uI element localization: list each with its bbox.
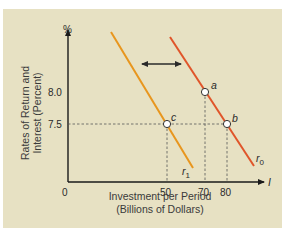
y-tick-8-0: 8.0 <box>48 87 62 98</box>
y-axis-title: Rates of Return and Interest (Percent) <box>19 43 43 183</box>
x-axis-title: Investment per Period (Billions of Dolla… <box>95 190 225 216</box>
label-r1: r1 <box>182 165 191 180</box>
y-unit-label: % <box>63 24 72 35</box>
curve-r0 <box>170 37 254 166</box>
x-axis-title-line-2: (Billions of Dollars) <box>95 203 225 216</box>
label-b: b <box>232 112 238 124</box>
y-tick-7-5: 7.5 <box>48 119 62 130</box>
label-a: a <box>211 79 217 91</box>
point-c <box>163 120 170 127</box>
y-axis-title-line-2: Interest (Percent) <box>31 43 43 183</box>
x-axis-symbol: I <box>268 176 271 188</box>
y-axis-title-line-1: Rates of Return and <box>19 43 31 183</box>
x-axis-title-line-1: Investment per Period <box>95 190 225 203</box>
label-c: c <box>171 111 177 123</box>
point-a <box>201 88 208 95</box>
label-r0: r0 <box>256 152 265 167</box>
x-tick-0: 0 <box>62 187 68 198</box>
point-b <box>223 120 230 127</box>
